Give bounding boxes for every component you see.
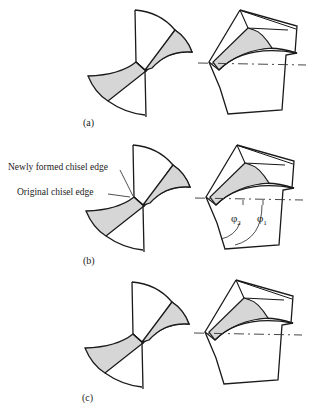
panel-a-drawing xyxy=(88,10,306,117)
panel-c-drawing xyxy=(85,280,302,389)
panel-label-a: (a) xyxy=(83,118,94,128)
label-original-chisel-edge: Original chisel edge xyxy=(17,188,94,198)
label-newly-formed-chisel-edge: Newly formed chisel edge xyxy=(8,163,108,173)
panel-label-b: (b) xyxy=(83,256,95,266)
angle-phi1: φ1 xyxy=(257,213,267,227)
panel-b-drawing xyxy=(86,145,303,252)
angle-phi2: φ2 xyxy=(231,213,241,227)
drill-diagram xyxy=(0,0,311,411)
panel-label-c: (c) xyxy=(82,393,93,403)
